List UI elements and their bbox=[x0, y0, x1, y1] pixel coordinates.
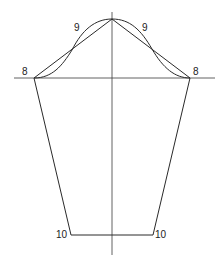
side-seam-right bbox=[153, 78, 190, 235]
label-wrist-left: 10 bbox=[56, 229, 68, 240]
label-cap-right: 9 bbox=[142, 22, 148, 33]
label-cap-left: 9 bbox=[74, 22, 80, 33]
label-underarm-left: 8 bbox=[22, 66, 28, 77]
cap-guide-right bbox=[112, 19, 190, 78]
label-wrist-right: 10 bbox=[155, 229, 167, 240]
label-underarm-right: 8 bbox=[193, 66, 199, 77]
sleeve-diagram: 8 8 9 9 10 10 bbox=[0, 0, 222, 262]
side-seam-left bbox=[34, 78, 71, 235]
